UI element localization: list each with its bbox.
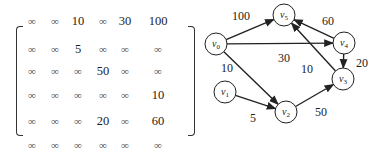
edge-weight-v1-v2: 5 <box>250 111 256 125</box>
edge-weight-v2-v3: 50 <box>315 105 327 119</box>
edge-v3-v5 <box>291 23 335 71</box>
edge-weight-v3-v5: 10 <box>301 62 313 76</box>
directed-graph: v0v1v2v3v4v5 1003010550106020 <box>0 0 374 166</box>
edge-weight-v0-v2: 10 <box>221 61 233 75</box>
edge-v0-v4 <box>227 43 333 44</box>
edge-weight-v4-v5: 60 <box>322 14 334 28</box>
edge-v1-v2 <box>235 95 275 108</box>
edge-weight-v0-v4: 30 <box>278 51 290 65</box>
edge-weight-v4-v3: 20 <box>356 56 368 70</box>
edge-weight-v0-v5: 100 <box>232 9 250 23</box>
edge-v2-v3 <box>296 85 334 107</box>
